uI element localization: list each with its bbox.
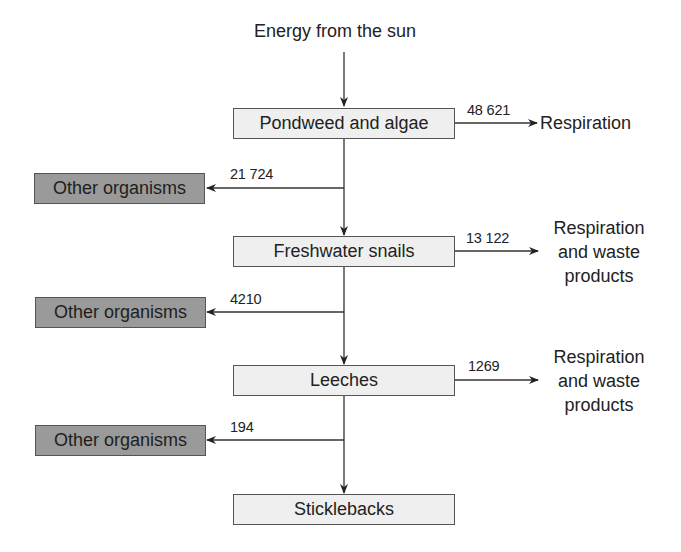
node-leeches: Leeches xyxy=(233,365,455,396)
value-right-3: 1269 xyxy=(468,358,499,374)
output-line: Respiration xyxy=(540,345,658,369)
output-respiration-waste-3: Respiration and waste products xyxy=(540,345,658,417)
output-line: products xyxy=(540,393,658,417)
output-line: Respiration xyxy=(540,111,631,135)
output-respiration-waste-2: Respiration and waste products xyxy=(540,216,658,288)
value-left-1: 21 724 xyxy=(230,166,273,182)
value-right-1: 48 621 xyxy=(467,102,510,118)
node-freshwater-snails: Freshwater snails xyxy=(233,236,455,267)
value-left-3: 194 xyxy=(230,419,254,435)
node-other-organisms-2: Other organisms xyxy=(35,297,206,328)
value-right-2: 13 122 xyxy=(466,230,509,246)
title-text: Energy from the sun xyxy=(254,21,416,42)
node-sticklebacks: Sticklebacks xyxy=(233,494,455,525)
output-line: products xyxy=(540,264,658,288)
output-line: and waste xyxy=(540,369,658,393)
value-left-2: 4210 xyxy=(230,291,261,307)
output-line: Respiration xyxy=(540,216,658,240)
node-pondweed-and-algae: Pondweed and algae xyxy=(233,108,455,139)
node-other-organisms-3: Other organisms xyxy=(35,425,206,456)
output-respiration-1: Respiration xyxy=(540,111,631,135)
node-other-organisms-1: Other organisms xyxy=(34,173,205,204)
output-line: and waste xyxy=(540,240,658,264)
